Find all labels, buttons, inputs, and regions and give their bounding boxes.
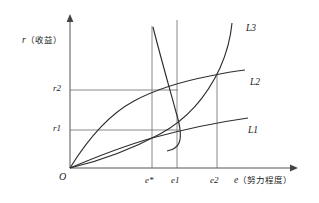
x-axis-arrow-icon <box>290 165 298 172</box>
y-tick-label-r1: r1 <box>53 124 61 133</box>
chart-canvas <box>0 0 319 203</box>
curve-label-L2: L2 <box>250 78 260 88</box>
y-tick-label-r2: r2 <box>53 84 61 93</box>
x-tick-label-e2: e2 <box>210 176 219 185</box>
curve-L2 <box>70 70 245 168</box>
x-axis-unit-text: （努力程度） <box>238 175 292 185</box>
x-tick-label-e-star: e* <box>145 176 154 185</box>
x-axis-label: e（努力程度） <box>234 176 292 186</box>
origin-label: O <box>59 172 66 182</box>
x-tick-label-e1: e1 <box>171 176 180 185</box>
reference-lines <box>70 20 217 168</box>
axis-group <box>70 20 292 168</box>
y-axis-unit-text: （收益） <box>26 35 62 45</box>
curve-label-L3: L3 <box>246 24 256 34</box>
y-axis-arrow-icon <box>67 14 74 22</box>
curve-group <box>70 23 248 168</box>
curve-label-L1: L1 <box>248 126 258 136</box>
curve-indifference <box>153 27 180 151</box>
curve-L3 <box>70 23 232 168</box>
y-axis-label: r（收益） <box>22 36 62 46</box>
economics-effort-return-chart: r（收益） e（努力程度） O r2 r1 e* e1 e2 L3 L2 L1 <box>0 0 319 203</box>
